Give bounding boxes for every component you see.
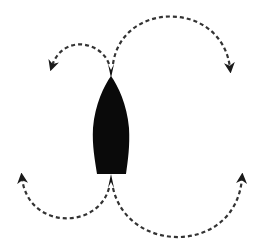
stern-left-arrow [22,178,109,218]
boat-hull [93,64,129,188]
bow-left-arrow [52,44,109,66]
bow-right-arrow [113,16,230,68]
boat-turning-diagram: Top view of a boat hull with four dashed… [0,0,254,252]
stern-right-arrow [113,178,242,237]
